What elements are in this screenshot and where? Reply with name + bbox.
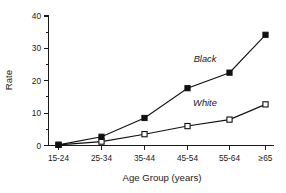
series-white (56, 102, 268, 148)
data-point-marker (142, 132, 147, 137)
x-tick-label-55-64: 55-64 (219, 153, 241, 163)
series-annotation-black: Black (194, 54, 218, 64)
x-axis-title: Age Group (years) (123, 172, 202, 183)
y-tick-label-0: 0 (36, 141, 41, 151)
x-tick-label-15-24: 15-24 (48, 153, 70, 163)
x-axis-ticks (59, 146, 266, 151)
y-tick-label-30: 30 (32, 43, 42, 53)
y-axis-major-ticks (44, 16, 49, 146)
data-point-marker (263, 32, 268, 37)
y-axis-title: Rate (3, 70, 14, 90)
series-annotation-white: White (193, 98, 217, 108)
x-tick-label-65plus: ≥65 (259, 153, 273, 163)
y-tick-label-40: 40 (32, 11, 42, 21)
data-point-marker (99, 134, 104, 139)
series-black (56, 32, 268, 147)
y-tick-label-20: 20 (32, 76, 42, 86)
data-point-marker (185, 123, 190, 128)
data-point-marker (185, 86, 190, 91)
x-tick-label-35-44: 35-44 (134, 153, 156, 163)
chart-container: Rate 0 10 20 30 40 (0, 0, 286, 193)
data-point-marker (263, 102, 268, 107)
x-tick-label-45-54: 45-54 (177, 153, 199, 163)
x-tick-label-25-34: 25-34 (91, 153, 113, 163)
data-point-marker (56, 142, 61, 147)
data-point-marker (227, 70, 232, 75)
data-point-marker (227, 117, 232, 122)
data-point-marker (142, 115, 147, 120)
y-tick-label-10: 10 (32, 108, 42, 118)
line-chart-plot: Rate 0 10 20 30 40 (0, 0, 286, 193)
